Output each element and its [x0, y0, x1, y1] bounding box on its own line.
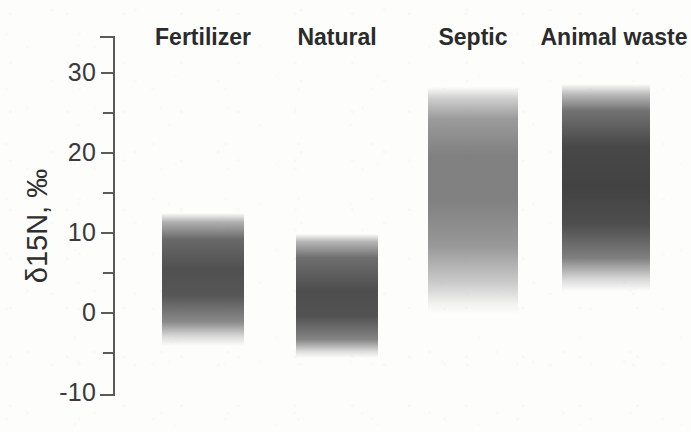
- bar-natural-gradient: [296, 234, 378, 358]
- bar-fertilizer: [162, 213, 244, 346]
- y-tick-minor-neg5: [103, 352, 115, 354]
- category-label-fertilizer: Fertilizer: [142, 24, 264, 50]
- category-label-animal-waste: Animal waste: [538, 24, 690, 50]
- y-tick-minor-25b: [103, 112, 115, 114]
- y-tick-minor-5: [103, 272, 115, 274]
- category-label-natural: Natural: [282, 24, 392, 50]
- y-tick-20: [101, 152, 115, 154]
- bar-septic: [428, 87, 518, 314]
- y-tick-minor-15: [103, 192, 115, 194]
- y-tick-10: [101, 232, 115, 234]
- bar-natural: [296, 234, 378, 358]
- y-tick-label-30: 30: [26, 60, 96, 85]
- y-axis-bottom-cap: [100, 394, 115, 396]
- bar-animal-waste: [562, 84, 650, 291]
- bar-septic-gradient: [428, 87, 518, 314]
- chart-figure: Fertilizer Natural Septic Animal waste 3…: [0, 0, 691, 432]
- bar-fertilizer-gradient: [162, 213, 244, 346]
- bar-animal-waste-gradient: [562, 84, 650, 291]
- y-axis-title: δ15N, ‰: [21, 111, 53, 341]
- y-tick-30: [101, 72, 115, 74]
- y-tick-label-neg10: -10: [26, 380, 96, 405]
- y-axis-spine: [113, 36, 115, 396]
- y-tick-0: [101, 312, 115, 314]
- category-label-septic: Septic: [420, 24, 526, 50]
- y-axis-top-cap: [100, 36, 115, 38]
